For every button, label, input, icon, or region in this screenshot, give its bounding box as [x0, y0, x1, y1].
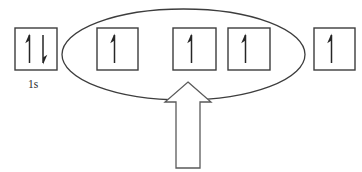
orbital-label-1s-text: 1s: [28, 78, 38, 90]
orbital-diagram: 1s: [0, 0, 362, 172]
orbital-box-5: [314, 28, 355, 70]
orbital-label-1s: 1s: [28, 74, 38, 92]
callout-arrow-up-icon: [165, 82, 211, 168]
orbital-box-4: [228, 28, 270, 70]
diagram-canvas: [0, 0, 362, 172]
orbital-box-2: [97, 28, 138, 70]
orbital-box-1s: [15, 28, 57, 70]
orbital-box-3: [173, 28, 216, 70]
